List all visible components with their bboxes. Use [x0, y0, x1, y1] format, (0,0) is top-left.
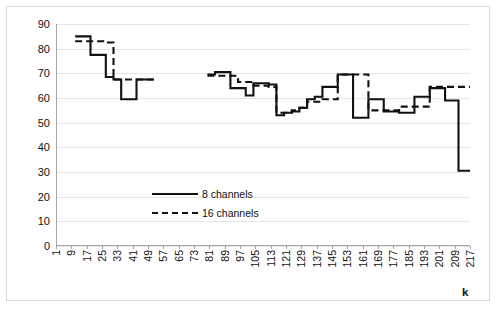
x-tick-label: 185: [403, 250, 415, 268]
x-tick-label: 89: [219, 250, 231, 262]
y-tick-label: 30: [38, 166, 50, 178]
chart-legend: 8 channels 16 channels: [152, 184, 259, 222]
x-tick-label: 201: [433, 250, 445, 268]
x-tick-label: 1: [50, 250, 62, 256]
x-tick-label: 25: [96, 250, 108, 262]
x-tick-label: 57: [157, 250, 169, 262]
series-lines: [56, 24, 470, 246]
legend-label-16-channels: 16 channels: [202, 207, 259, 219]
series-path-8-channels-seg0: [75, 36, 154, 99]
x-tick-label: 177: [387, 250, 399, 268]
x-tick-label: 193: [418, 250, 430, 268]
x-tick-label: 73: [188, 250, 200, 262]
x-tick-label: 169: [372, 250, 384, 268]
y-tick-label: 70: [38, 67, 50, 79]
y-tick-label: 80: [38, 43, 50, 55]
x-tickmark: [179, 246, 180, 249]
y-tick-label: 20: [38, 191, 50, 203]
x-tickmark: [71, 246, 72, 249]
x-tick-label: 113: [265, 250, 277, 267]
x-tick-label: 33: [111, 250, 123, 262]
x-tickmark: [240, 246, 241, 249]
x-tickmark: [209, 246, 210, 249]
legend-swatch-dashed-icon: [152, 212, 198, 214]
y-tick-label: 90: [38, 18, 50, 30]
x-tick-label: 129: [295, 250, 307, 268]
x-tickmark: [117, 246, 118, 249]
y-tick-label: 50: [38, 117, 50, 129]
series-path-16-channels-seg0: [75, 41, 154, 79]
x-tick-label: 209: [449, 250, 461, 268]
y-tick-label: 60: [38, 92, 50, 104]
legend-item-8-channels: 8 channels: [152, 184, 259, 203]
x-tickmark: [148, 246, 149, 249]
x-tick-label: 121: [280, 250, 292, 268]
legend-swatch-solid-icon: [152, 193, 198, 195]
x-tick-label: 217: [464, 250, 476, 268]
y-tick-label: 10: [38, 215, 50, 227]
y-axis-tick-labels: 0102030405060708090: [0, 24, 50, 246]
legend-item-16-channels: 16 channels: [152, 203, 259, 222]
y-tick-label: 40: [38, 141, 50, 153]
x-tickmark: [194, 246, 195, 249]
x-tick-label: 9: [65, 250, 77, 256]
x-tickmark: [225, 246, 226, 249]
x-tickmark: [56, 246, 57, 249]
x-tick-label: 49: [142, 250, 154, 262]
x-tick-label: 81: [203, 250, 215, 262]
x-tick-label: 145: [326, 250, 338, 268]
legend-label-8-channels: 8 channels: [202, 188, 253, 200]
x-tick-label: 137: [311, 250, 323, 268]
x-tick-label: 65: [173, 250, 185, 262]
plot-area: [56, 24, 470, 246]
x-tickmark: [133, 246, 134, 249]
x-tick-label: 41: [127, 250, 139, 262]
x-tickmark: [102, 246, 103, 249]
x-tickmark: [163, 246, 164, 249]
x-tick-label: 17: [81, 250, 93, 262]
x-tick-label: 153: [341, 250, 353, 268]
x-tick-label: 97: [234, 250, 246, 262]
x-axis-tick-labels: 1917253341495765738189971051131211291371…: [56, 250, 470, 290]
x-tickmark: [87, 246, 88, 249]
x-tick-label: 161: [357, 250, 369, 268]
chart-container: Percentage of zeros, % k 010203040506070…: [0, 0, 497, 312]
x-tick-label: 105: [249, 250, 261, 268]
x-tickmark: [271, 246, 272, 249]
